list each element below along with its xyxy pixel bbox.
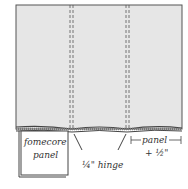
fomecore-label-line1: fomecore	[24, 137, 67, 147]
panel-label-line2: + ½"	[145, 148, 168, 158]
fabric-panel	[16, 5, 182, 129]
fabric-panel-diagram: fomecore panel ¼" hinge panel + ½"	[0, 0, 188, 189]
hinge-pointer-lines	[74, 134, 126, 150]
hinge-label: ¼" hinge	[82, 160, 123, 170]
fomecore-label-line2: panel	[33, 150, 58, 160]
panel-label-line1: panel	[142, 135, 167, 145]
